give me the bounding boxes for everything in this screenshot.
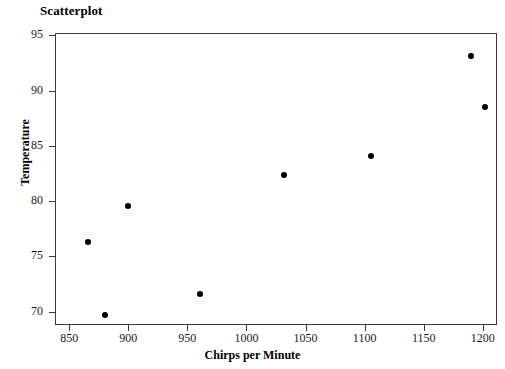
- y-axis-tick-label: 70: [19, 305, 43, 317]
- data-point: [85, 239, 91, 245]
- data-point: [482, 104, 488, 110]
- data-point: [197, 291, 203, 297]
- x-axis-tick-label: 1100: [345, 332, 385, 344]
- x-axis-tick-label: 1050: [286, 332, 326, 344]
- x-axis-tick-label: 1150: [404, 332, 444, 344]
- x-axis-tick-label: 950: [167, 332, 207, 344]
- data-point: [102, 312, 108, 318]
- x-axis-label: Chirps per Minute: [0, 348, 505, 363]
- x-axis-tick-label: 1200: [463, 332, 503, 344]
- y-axis-tick-label: 95: [19, 28, 43, 40]
- y-axis-tick-label: 75: [19, 249, 43, 261]
- scatterplot-figure: Scatterplot 7075808590958509009501000105…: [0, 0, 505, 369]
- plot-data-area: [55, 33, 497, 325]
- x-axis-tick-label: 850: [49, 332, 89, 344]
- data-point: [125, 203, 131, 209]
- data-point: [468, 53, 474, 59]
- y-axis-label: Temperature: [18, 73, 33, 233]
- data-point: [368, 153, 374, 159]
- data-point: [281, 172, 287, 178]
- chart-title: Scatterplot: [40, 3, 102, 19]
- x-axis-tick-label: 1000: [226, 332, 266, 344]
- x-axis-tick-label: 900: [108, 332, 148, 344]
